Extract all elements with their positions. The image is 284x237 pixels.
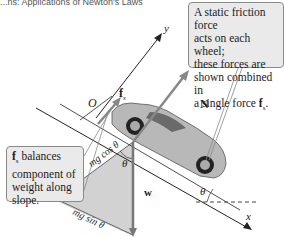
friction-subscript: s: [123, 94, 126, 102]
callout-line: component of: [12, 168, 78, 181]
callout-text: .: [265, 97, 268, 109]
y-axis-arrowhead: [154, 33, 162, 42]
x-axis-label: x: [246, 210, 251, 222]
theta-label-triangle: θ: [122, 157, 127, 169]
callout-line: these forces are: [194, 58, 278, 71]
callout-line: acts on each wheel;: [194, 32, 278, 58]
static-friction-callout: A static friction force acts on each whe…: [188, 2, 284, 68]
callout-line: fs balances: [12, 150, 78, 168]
callout-line: shown combined in: [194, 71, 278, 97]
callout-line: A static friction force: [194, 6, 278, 32]
x-axis-arrowhead: [243, 222, 252, 230]
y-axis-label: y: [164, 22, 169, 34]
callout-text: balances: [19, 150, 61, 162]
weight-label: w: [144, 186, 152, 198]
friction-balance-callout: fs balances component of weight along sl…: [6, 146, 84, 202]
normal-label: N: [200, 97, 209, 112]
callout-line: slope.: [12, 194, 78, 207]
theta-label-slope: θ: [200, 185, 205, 197]
friction-label: fs: [119, 86, 126, 102]
origin-label: O: [88, 96, 97, 111]
callout-line: weight along: [12, 181, 78, 194]
